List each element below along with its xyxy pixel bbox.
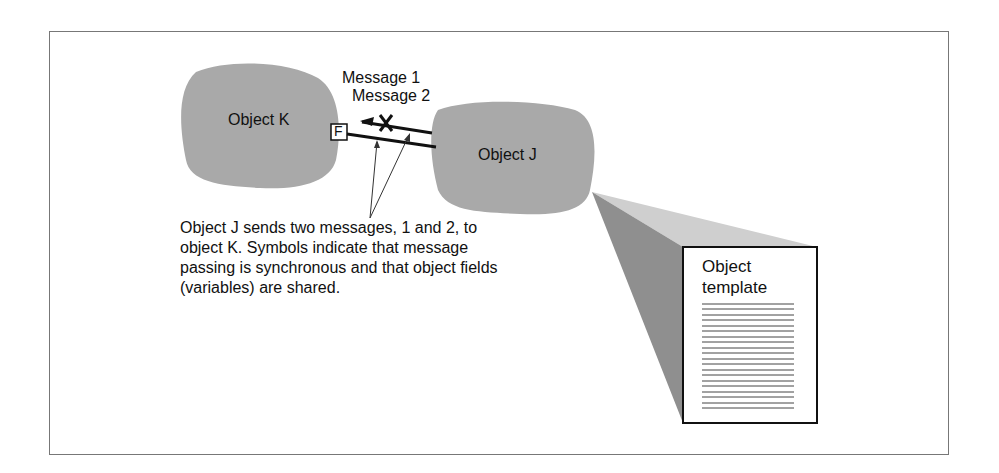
template-title-line: template [702,277,767,298]
field-symbol: F [334,123,343,140]
caption-line: object K. Symbols indicate that message [180,238,498,258]
template-title: Object template [702,256,767,298]
message-1-label: Message 1 [342,69,420,87]
message-2-line [347,134,436,147]
message-2-label: Message 2 [352,87,430,105]
caption-line: Object J sends two messages, 1 and 2, to [180,218,498,238]
template-title-line: Object [702,256,767,277]
caption-line: passing is synchronous and that object f… [180,258,498,278]
synchronous-x-icon [380,115,392,131]
pointer-line-1 [370,142,377,218]
caption: Object J sends two messages, 1 and 2, to… [180,218,498,298]
message-1-arrowhead [360,117,374,126]
object-j-label: Object J [478,146,537,164]
caption-line: (variables) are shared. [180,278,498,298]
diagram-canvas [0,0,999,473]
object-k-label: Object K [228,111,289,129]
